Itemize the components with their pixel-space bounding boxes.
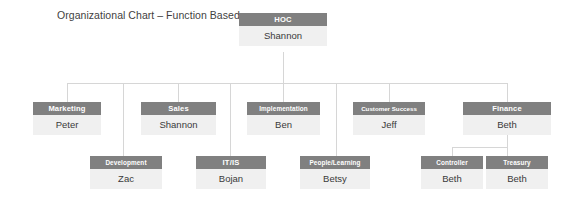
- org-node-finance[interactable]: Finance Beth: [463, 102, 551, 135]
- org-node-name: Ben: [247, 115, 320, 135]
- org-node-role: HOC: [239, 13, 327, 26]
- org-node-role: Development: [90, 156, 162, 169]
- connector-drop-marketing: [67, 83, 68, 102]
- connector-drop-people-learning: [336, 83, 337, 156]
- org-node-hoc[interactable]: HOC Shannon: [239, 13, 327, 46]
- org-node-marketing[interactable]: Marketing Peter: [33, 102, 101, 135]
- org-node-name: Peter: [33, 115, 101, 135]
- org-node-controller[interactable]: Controller Beth: [421, 156, 483, 189]
- org-node-name: Beth: [486, 169, 548, 189]
- page-title: Organizational Chart – Function Based: [57, 9, 240, 21]
- org-node-name: Beth: [463, 115, 551, 135]
- org-node-name: Zac: [90, 169, 162, 189]
- org-node-sales[interactable]: Sales Shannon: [141, 102, 216, 135]
- connector-drop-treasury: [507, 147, 508, 156]
- org-node-it-is[interactable]: IT/IS Bojan: [196, 156, 266, 189]
- connector-drop-finance: [507, 83, 508, 102]
- org-node-role: Treasury: [486, 156, 548, 169]
- org-node-role: Finance: [463, 102, 551, 115]
- connector-level2-bus: [67, 83, 507, 84]
- org-node-role: Sales: [141, 102, 216, 115]
- connector-drop-customer-success: [389, 83, 390, 102]
- connector-drop-it-is: [230, 83, 231, 156]
- org-node-name: Shannon: [239, 26, 327, 46]
- connector-drop-development: [123, 83, 124, 156]
- connector-finance-bus: [452, 147, 508, 148]
- org-chart-canvas: Organizational Chart – Function Based HO…: [0, 0, 567, 205]
- org-node-customer-success[interactable]: Customer Success Jeff: [353, 102, 425, 135]
- org-node-development[interactable]: Development Zac: [90, 156, 162, 189]
- org-node-role: People/Learning: [300, 156, 370, 169]
- org-node-role: Marketing: [33, 102, 101, 115]
- org-node-role: Customer Success: [353, 102, 425, 115]
- connector-drop-sales: [178, 83, 179, 102]
- org-node-people-learning[interactable]: People/Learning Betsy: [300, 156, 370, 189]
- org-node-role: IT/IS: [196, 156, 266, 169]
- org-node-treasury[interactable]: Treasury Beth: [486, 156, 548, 189]
- org-node-name: Shannon: [141, 115, 216, 135]
- org-node-name: Jeff: [353, 115, 425, 135]
- connector-drop-controller: [452, 147, 453, 156]
- connector-drop-implementation: [283, 83, 284, 102]
- connector-finance-stem: [507, 135, 508, 147]
- connector-root-stem: [283, 52, 284, 83]
- org-node-name: Betsy: [300, 169, 370, 189]
- org-node-name: Beth: [421, 169, 483, 189]
- org-node-role: Controller: [421, 156, 483, 169]
- org-node-role: Implementation: [247, 102, 320, 115]
- org-node-name: Bojan: [196, 169, 266, 189]
- org-node-implementation[interactable]: Implementation Ben: [247, 102, 320, 135]
